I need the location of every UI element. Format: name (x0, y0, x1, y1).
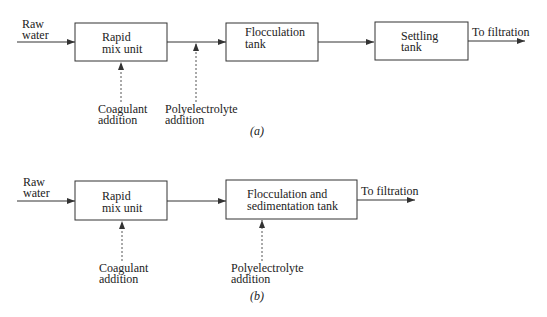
caption-a: (a) (250, 124, 264, 138)
caption-b: (b) (250, 289, 264, 303)
to-filtration-label: To filtration (361, 184, 418, 198)
raw-water-label-line2: water (23, 186, 50, 200)
process-flow-diagrams: Raw water Rapid mix unit Flocculation ta… (0, 0, 547, 317)
floc-sed-label-line2: sedimentation tank (247, 199, 338, 213)
coagulant-label-line2: addition (99, 272, 138, 286)
to-filtration-label: To filtration (472, 25, 529, 39)
raw-water-label-line2: water (22, 28, 49, 42)
rapid-mix-label-line2: mix unit (102, 42, 143, 56)
polyelectrolyte-label-line2: addition (231, 272, 270, 286)
polyelectrolyte-label-line2: addition (165, 113, 204, 127)
diagram-canvas: Raw water Rapid mix unit Flocculation ta… (0, 0, 547, 317)
diagram-b: Raw water Rapid mix unit Flocculation an… (17, 175, 418, 303)
diagram-a: Raw water Rapid mix unit Flocculation ta… (17, 17, 529, 138)
coagulant-label-line2: addition (98, 113, 137, 127)
rapid-mix-label-line2: mix unit (102, 201, 143, 215)
settling-label-line2: tank (401, 40, 422, 54)
flocculation-label-line2: tank (245, 37, 266, 51)
